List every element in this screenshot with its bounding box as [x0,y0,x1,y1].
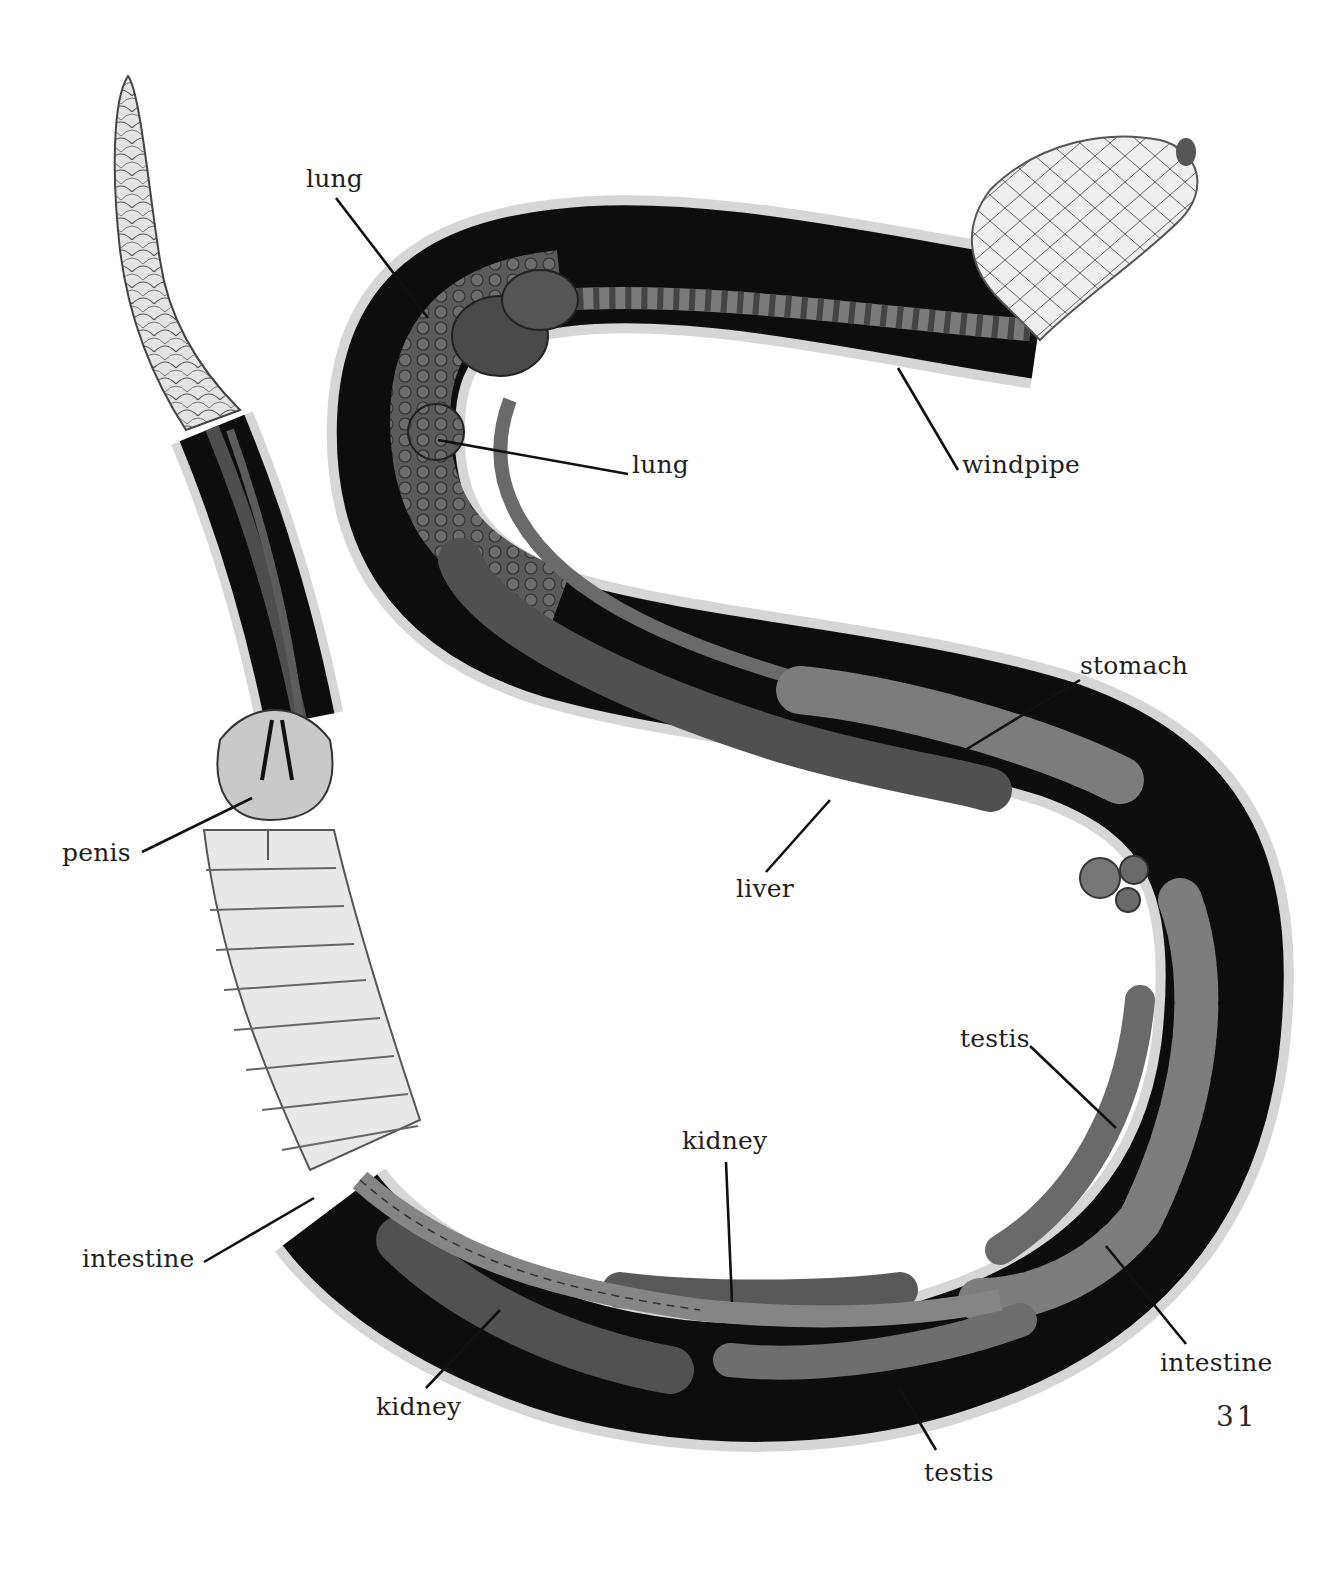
leader-line-intestine-right [1106,1246,1186,1344]
label-intestine-right: intestine [1160,1350,1273,1375]
leader-line-lung-lower [438,440,628,474]
label-kidney-lower: kidney [376,1394,461,1419]
leader-line-penis [142,798,252,852]
label-testis-upper: testis [960,1026,1030,1051]
leader-line-kidney-lower [426,1310,500,1388]
figure-page: lunglungwindpipestomachliverpenistestisk… [0,0,1323,1570]
leader-line-stomach [962,680,1080,752]
leader-line-liver [766,800,830,872]
leader-line-windpipe [898,368,958,470]
label-intestine-left: intestine [82,1246,195,1271]
leader-line-testis-upper [1030,1046,1116,1128]
label-stomach: stomach [1080,653,1188,678]
leader-line-intestine-left [204,1198,314,1262]
label-lung-lower: lung [632,452,689,477]
leader-line-kidney-upper [726,1162,732,1302]
label-penis: penis [62,840,131,865]
label-testis-lower: testis [924,1460,994,1485]
label-lung-upper: lung [306,166,363,191]
label-windpipe: windpipe [962,452,1080,477]
page-number: 31 [1216,1400,1258,1433]
label-liver: liver [736,876,794,901]
leader-line-lung-upper [336,198,428,318]
leader-lines [0,0,1323,1570]
label-kidney-upper: kidney [682,1128,767,1153]
leader-line-testis-lower [898,1386,936,1450]
